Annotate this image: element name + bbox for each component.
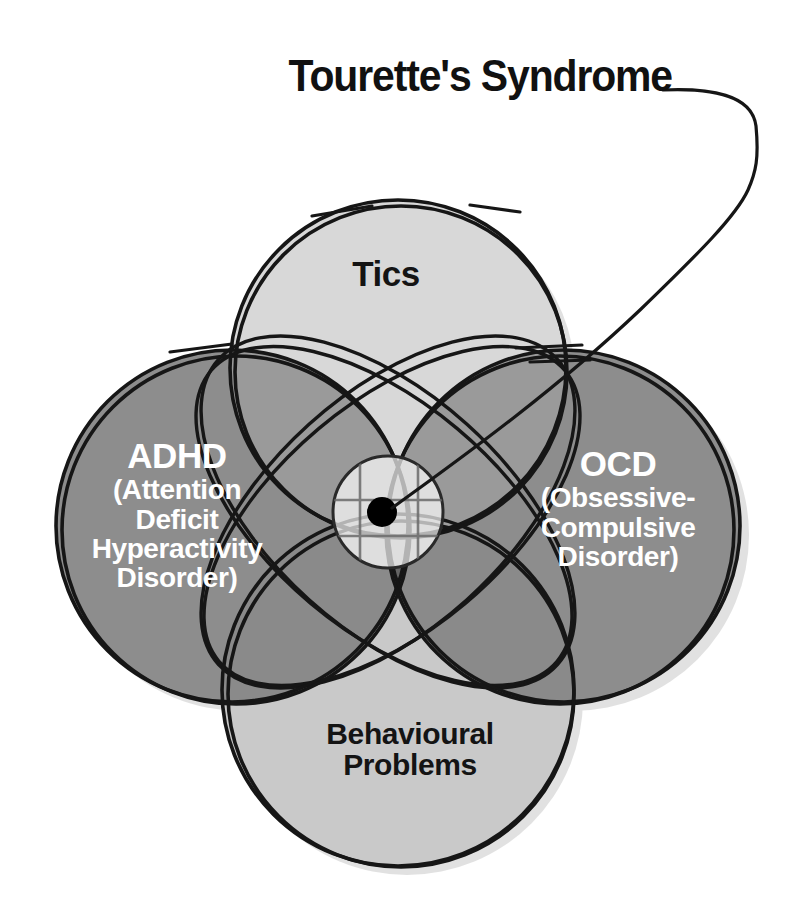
- intersection-dot: [367, 497, 397, 527]
- label-adhd-line-2: Deficit: [62, 505, 292, 534]
- label-tics-line-0: Tics: [296, 256, 476, 292]
- label-adhd-line-3: Hyperactivity: [62, 534, 292, 563]
- label-ocd-line-1: (Obsessive-: [500, 483, 736, 512]
- diagram-canvas: Tourette's Syndrome Tics ADHD (Attention…: [0, 0, 793, 914]
- label-ocd-line-0: OCD: [500, 446, 736, 482]
- label-tics: Tics: [296, 256, 476, 292]
- label-adhd-line-1: (Attention: [62, 475, 292, 504]
- label-bp-line-1: Problems: [280, 749, 540, 780]
- label-ocd: OCD (Obsessive- Compulsive Disorder): [500, 446, 736, 571]
- page-title: Tourette's Syndrome: [47, 54, 672, 98]
- label-bp-line-0: Behavioural: [280, 718, 540, 749]
- label-ocd-line-3: Disorder): [500, 542, 736, 571]
- label-adhd-line-4: Disorder): [62, 563, 292, 592]
- label-adhd-line-0: ADHD: [62, 438, 292, 474]
- label-ocd-line-2: Compulsive: [500, 513, 736, 542]
- label-behavioural-problems: Behavioural Problems: [280, 718, 540, 780]
- label-adhd: ADHD (Attention Deficit Hyperactivity Di…: [62, 438, 292, 592]
